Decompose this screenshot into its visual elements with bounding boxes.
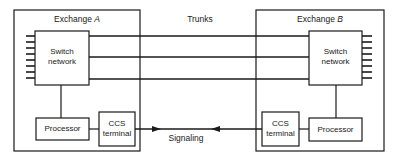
switch-network-a: Switch network bbox=[35, 42, 89, 72]
exchange-a-label: Exchange A bbox=[14, 14, 140, 24]
processor-b: Processor bbox=[309, 118, 362, 141]
signaling-label: Signaling bbox=[156, 133, 216, 143]
subscriber-lines-a bbox=[26, 36, 35, 78]
trunks-label: Trunks bbox=[160, 14, 240, 24]
exchange-b-label: Exchange B bbox=[256, 14, 384, 24]
switch-network-b: Switch network bbox=[309, 42, 362, 72]
ccs-terminal-a: CCS terminal bbox=[99, 112, 135, 146]
ccs-diagram: Exchange A Trunks Exchange B Switch netw… bbox=[0, 0, 400, 162]
subscriber-lines-b bbox=[362, 36, 372, 78]
processor-a: Processor bbox=[36, 118, 89, 140]
ccs-terminal-b: CCS terminal bbox=[262, 112, 299, 146]
trunk-lines bbox=[89, 36, 309, 79]
signaling-arrow-left-icon bbox=[211, 126, 220, 132]
signaling-arrow-right-icon bbox=[152, 126, 161, 132]
